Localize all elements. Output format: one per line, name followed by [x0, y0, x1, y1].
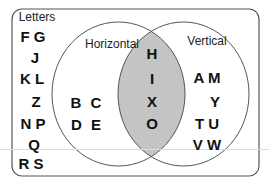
vertical-only-letters-row: A M [194, 69, 221, 86]
set-label-horizontal: Horizontal [85, 37, 139, 51]
outside-letters-row: Q [28, 136, 40, 153]
outside-letters-row: R S [18, 155, 43, 172]
intersection-letter: O [146, 115, 158, 132]
horizontal-only-letters-row: D E [71, 116, 101, 133]
outside-letters-row: F G [21, 28, 46, 45]
intersection-letter: H [147, 45, 158, 62]
intersection-letter: I [150, 70, 154, 87]
outside-letters-row: N P [20, 115, 45, 132]
outside-letters-row: K L [20, 70, 44, 87]
intersection-letter: X [147, 93, 157, 110]
venn-diagram: Letters Horizontal Vertical F G J K L Z … [0, 0, 269, 189]
universe-label: Letters [19, 10, 56, 24]
set-label-vertical: Vertical [187, 34, 226, 48]
vertical-only-letters-row: Y [210, 93, 220, 110]
horizontal-only-letters-row: B C [71, 94, 102, 111]
outside-letters-row: Z [31, 93, 40, 110]
vertical-only-letters-row: V W [193, 136, 221, 153]
scan-artifact-line [0, 149, 269, 150]
outside-letters-row: J [31, 49, 39, 66]
vertical-only-letters-row: T U [195, 115, 219, 132]
